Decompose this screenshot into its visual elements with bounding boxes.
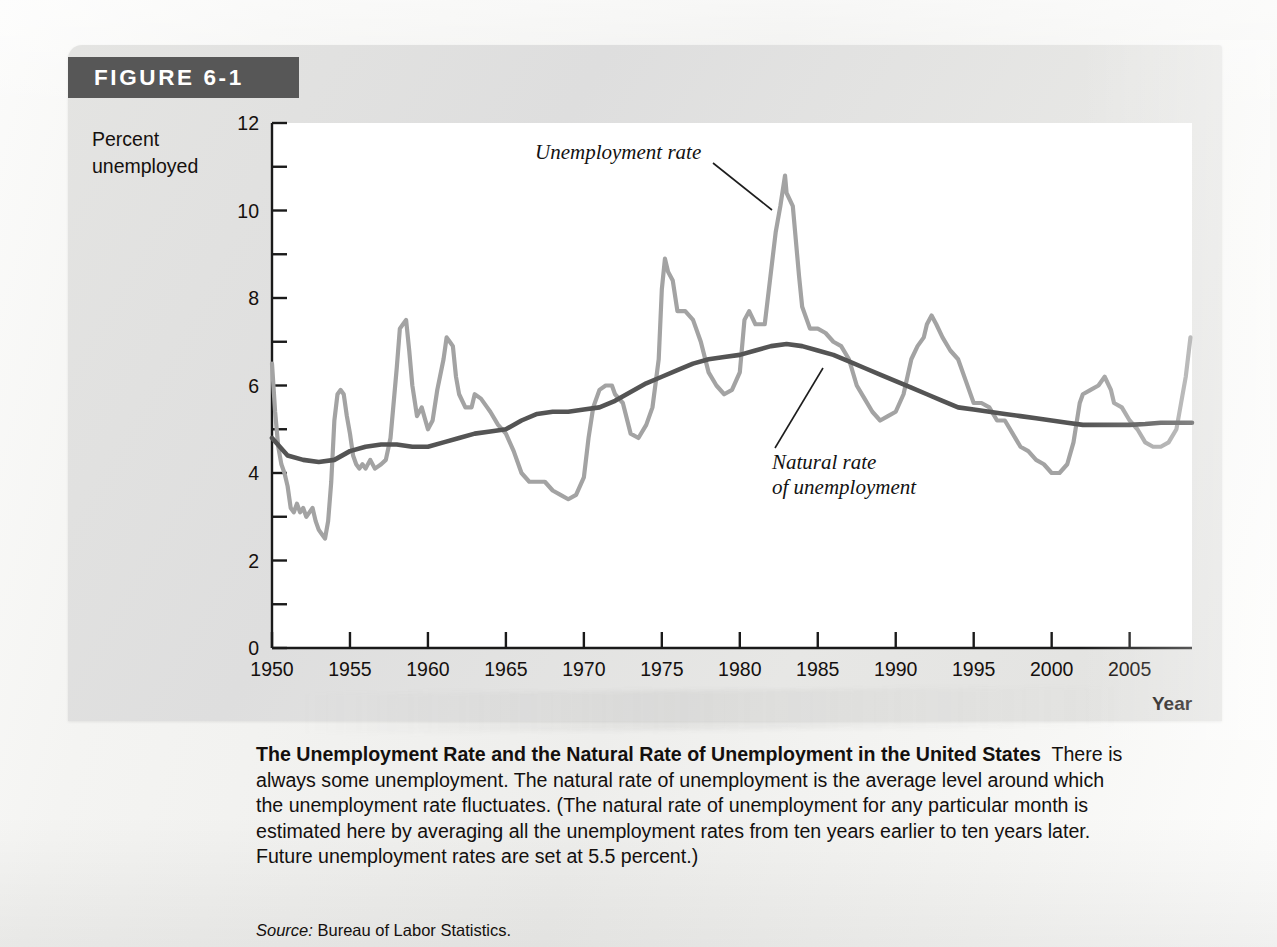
- svg-text:2000: 2000: [1030, 658, 1074, 680]
- svg-text:1960: 1960: [406, 658, 450, 680]
- svg-text:1975: 1975: [640, 658, 684, 680]
- caption-title: The Unemployment Rate and the Natural Ra…: [256, 743, 1041, 765]
- svg-text:10: 10: [237, 200, 259, 222]
- figure-source: Source: Bureau of Labor Statistics.: [256, 921, 511, 940]
- x-tick-labels: 1950195519601965197019751980198519901995…: [250, 658, 1151, 680]
- source-text: Bureau of Labor Statistics.: [317, 921, 511, 939]
- chart-series: [272, 176, 1192, 539]
- svg-text:1995: 1995: [952, 658, 996, 680]
- svg-text:1950: 1950: [250, 658, 294, 680]
- svg-text:0: 0: [248, 637, 259, 659]
- svg-text:1970: 1970: [562, 658, 606, 680]
- figure-caption: The Unemployment Rate and the Natural Ra…: [256, 742, 1128, 870]
- svg-text:2005: 2005: [1108, 658, 1152, 680]
- svg-text:1965: 1965: [484, 658, 528, 680]
- svg-text:1985: 1985: [796, 658, 840, 680]
- y-tick-labels: 024681012: [237, 112, 259, 659]
- chart-ticks: [272, 123, 1130, 648]
- svg-text:8: 8: [248, 287, 259, 309]
- svg-text:6: 6: [248, 375, 259, 397]
- svg-text:2: 2: [248, 550, 259, 572]
- svg-text:1990: 1990: [874, 658, 918, 680]
- svg-text:12: 12: [237, 112, 259, 134]
- svg-text:1980: 1980: [718, 658, 762, 680]
- svg-text:4: 4: [248, 462, 259, 484]
- svg-text:1955: 1955: [328, 658, 372, 680]
- caption-spacer: [1041, 743, 1052, 765]
- source-label: Source:: [256, 921, 313, 939]
